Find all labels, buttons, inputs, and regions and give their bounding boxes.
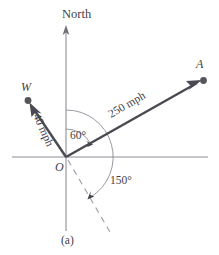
angle-60-label: 60° <box>70 130 86 142</box>
origin-label: O <box>55 161 64 173</box>
diagram-canvas <box>0 0 219 255</box>
vector-diagram-figure: North A W O 250 mph 40 mph 60° 150° (a) <box>0 0 219 255</box>
angle-150-label: 150° <box>110 175 132 187</box>
point-a-label: A <box>196 58 203 70</box>
point-w-marker <box>25 97 32 104</box>
point-w-label: W <box>21 81 31 93</box>
figure-caption: (a) <box>61 235 74 247</box>
north-axis-label: North <box>62 8 91 21</box>
point-a-marker <box>200 77 207 84</box>
